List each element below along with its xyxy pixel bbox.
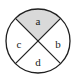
sector-label-b: b (55, 38, 61, 50)
sector-label-d: d (35, 56, 41, 68)
sector-diagram: a b c d (0, 0, 76, 82)
figure-container: a b c d (0, 0, 76, 82)
sector-label-a: a (36, 15, 41, 27)
sector-label-c: c (17, 38, 22, 50)
